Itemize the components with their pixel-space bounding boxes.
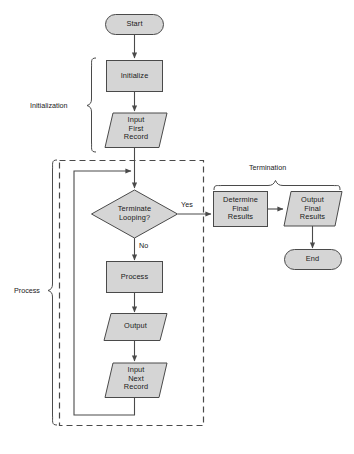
edge-label-no: No [139,241,148,250]
node-input-next-record-io [105,363,167,398]
group-label-termination: Termination [249,163,286,172]
node-start-terminator [106,15,164,35]
node-output-final-results-io [284,192,342,227]
node-end-terminator [285,250,342,270]
group-label-process: Process [14,286,40,295]
brace-initialization [87,58,96,152]
edge-label-yes: Yes [181,200,193,209]
brace-termination [214,181,340,191]
group-label-initialization: Initialization [30,101,68,110]
brace-process [48,160,57,425]
node-initialize-process [107,61,163,92]
node-process-box [107,262,163,293]
node-input-first-record-io [105,113,167,148]
flowchart-diagram: Start Initialize Input First Record Term… [0,0,354,454]
node-determine-final-results-process [214,192,268,227]
flowchart-canvas [0,0,354,454]
node-output-io [104,314,167,341]
node-terminate-looping-decision [92,190,178,238]
